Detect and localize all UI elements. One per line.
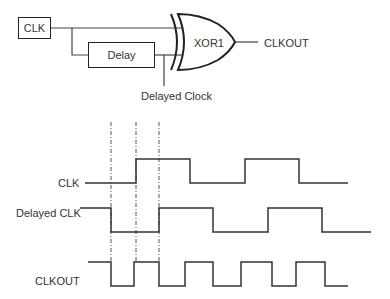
delayed-clock-label: Delayed Clock — [141, 90, 212, 102]
clk-source-label: CLK — [24, 22, 45, 34]
signal-label-delayed-clk: Delayed CLK — [16, 207, 81, 219]
waveforms — [80, 159, 371, 286]
waveform-clkout — [88, 262, 348, 286]
clk-source-box: CLK — [18, 17, 51, 39]
delay-label: Delay — [107, 49, 135, 61]
waveform-delayed-clk — [80, 208, 371, 232]
signal-label-clk: CLK — [58, 177, 79, 189]
waveform-clk — [85, 159, 348, 183]
output-label: CLKOUT — [264, 37, 309, 49]
delay-box: Delay — [88, 42, 155, 68]
xor-gate-back-curve — [171, 14, 177, 70]
clk-branch-wire — [72, 28, 88, 55]
signal-label-clkout: CLKOUT — [35, 275, 80, 287]
xor-gate-label: XOR1 — [194, 37, 224, 49]
timing-markers — [111, 122, 159, 262]
